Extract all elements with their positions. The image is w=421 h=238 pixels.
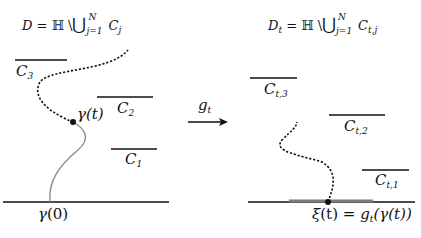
label-driving-function: ξ(t) = gt(γ(t)) xyxy=(312,207,412,222)
title-term-sub: j xyxy=(118,25,121,35)
title-term: C xyxy=(108,18,118,33)
union-lower: j=1 xyxy=(336,27,352,36)
label-gamma-0: γ(0) xyxy=(38,207,68,222)
union-symbol: ⋃ xyxy=(322,14,336,34)
traced-curve-gamma xyxy=(50,122,86,202)
label-ct2: Ct,2 xyxy=(344,119,368,134)
title-term-sub: t,j xyxy=(368,25,377,35)
title-eq: = xyxy=(286,18,297,33)
gamma-t-point xyxy=(70,119,76,125)
union-upper: N xyxy=(338,13,346,22)
right-domain-title: Dt = ℍ \⋃Nj=1Ct,j xyxy=(268,16,377,33)
label-ct3: Ct,3 xyxy=(264,82,288,97)
title-term: C xyxy=(358,18,368,33)
label-c1: C1 xyxy=(125,152,142,167)
label-c3: C3 xyxy=(16,64,33,79)
label-c2: C2 xyxy=(117,101,134,116)
label-map-g-t: gt xyxy=(198,98,211,113)
title-lhs: D xyxy=(22,18,32,33)
label-gamma-t: γ(t) xyxy=(77,107,104,122)
half-plane-symbol: ℍ xyxy=(301,18,313,33)
title-lhs: D xyxy=(268,18,278,33)
union-lower: j=1 xyxy=(86,27,102,36)
title-lhs-sub: t xyxy=(278,25,282,35)
label-ct1: Ct,1 xyxy=(375,173,399,188)
union-upper: N xyxy=(88,13,96,22)
mapped-curve-dotted xyxy=(280,122,333,202)
union-symbol: ⋃ xyxy=(72,14,86,34)
left-domain-title: D = ℍ \⋃Nj=1Cj xyxy=(22,16,121,33)
half-plane-symbol: ℍ xyxy=(52,18,64,33)
title-eq: = xyxy=(37,18,48,33)
